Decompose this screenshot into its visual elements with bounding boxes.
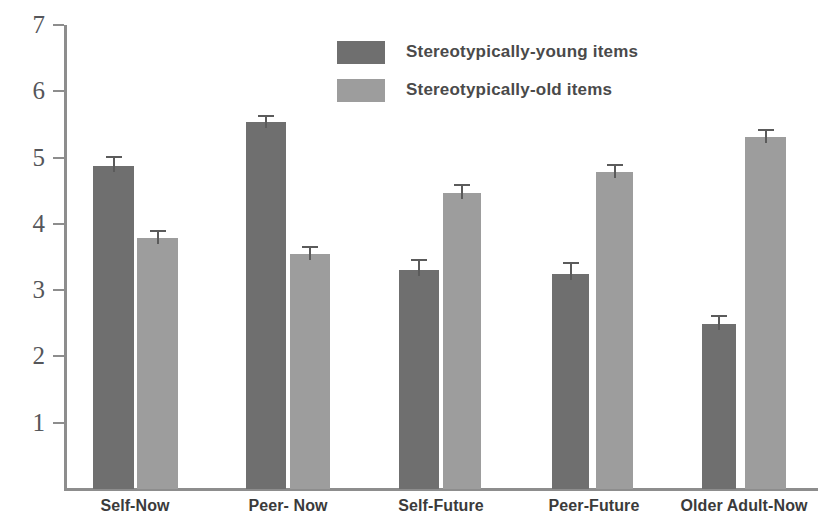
bar-young <box>552 274 589 489</box>
bar-old <box>137 238 178 489</box>
error-bar-stem <box>718 315 720 330</box>
legend: Stereotypically-young itemsStereotypical… <box>337 33 638 109</box>
error-bar-cap <box>711 315 727 317</box>
error-bar-stem <box>418 259 420 276</box>
x-axis-group-label: Older Adult-Now <box>634 497 835 515</box>
error-bar-cap <box>302 246 318 248</box>
error-bar-cap <box>258 115 274 117</box>
bar-young <box>702 324 736 489</box>
error-bar-cap <box>607 164 623 166</box>
legend-swatch-icon <box>337 79 385 102</box>
error-bar-stem <box>309 246 311 260</box>
bar-chart: 7654321 Self-NowPeer- NowSelf-FuturePeer… <box>0 0 835 529</box>
bar-old <box>596 172 633 489</box>
error-bar-cap <box>150 230 166 232</box>
error-bar-stem <box>614 164 616 178</box>
error-bar-cap <box>758 129 774 131</box>
legend-label: Stereotypically-old items <box>406 80 612 100</box>
legend-item: Stereotypically-old items <box>337 71 638 109</box>
error-bar-cap <box>411 259 427 261</box>
bar-old <box>745 137 786 489</box>
legend-item: Stereotypically-young items <box>337 33 638 71</box>
error-bar-stem <box>461 184 463 199</box>
error-bar-cap <box>454 184 470 186</box>
error-bar-stem <box>113 156 115 172</box>
error-bar-cap <box>563 262 579 264</box>
bar-young <box>399 270 439 489</box>
error-bar-cap <box>106 156 122 158</box>
legend-swatch-icon <box>337 41 385 64</box>
bar-old <box>290 254 330 489</box>
error-bar-stem <box>765 129 767 143</box>
bar-old <box>443 193 481 489</box>
bar-young <box>93 166 134 489</box>
error-bar-stem <box>570 262 572 281</box>
legend-label: Stereotypically-young items <box>406 42 638 62</box>
bar-young <box>246 122 286 489</box>
